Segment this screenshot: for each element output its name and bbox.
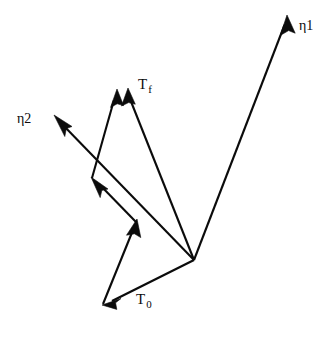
chain-arrowhead-2 xyxy=(91,177,108,198)
vector-eta1-arrowhead xyxy=(280,15,295,36)
label-t0-base: T xyxy=(136,291,145,307)
vector-t0-shaft xyxy=(112,260,194,301)
vector-diagram-figure: η1 η2 Tf T0 xyxy=(0,0,334,338)
label-t0: T0 xyxy=(136,291,151,307)
chain-arrowhead-1 xyxy=(127,219,141,238)
label-t0-subscript: 0 xyxy=(146,298,152,310)
chain-arrowhead-3 xyxy=(111,89,124,107)
vector-eta2 xyxy=(54,115,194,260)
label-eta1: η1 xyxy=(299,19,313,33)
label-tf-base: T xyxy=(138,76,147,92)
label-tf-subscript: f xyxy=(148,83,152,95)
vector-tf-arrowhead xyxy=(122,88,136,106)
vector-eta2-arrowhead xyxy=(54,115,72,137)
label-tf: Tf xyxy=(138,76,151,92)
label-eta2: η2 xyxy=(17,112,31,126)
vector-canvas xyxy=(0,0,334,338)
vector-eta1 xyxy=(194,15,295,260)
vector-eta1-shaft xyxy=(194,25,285,260)
